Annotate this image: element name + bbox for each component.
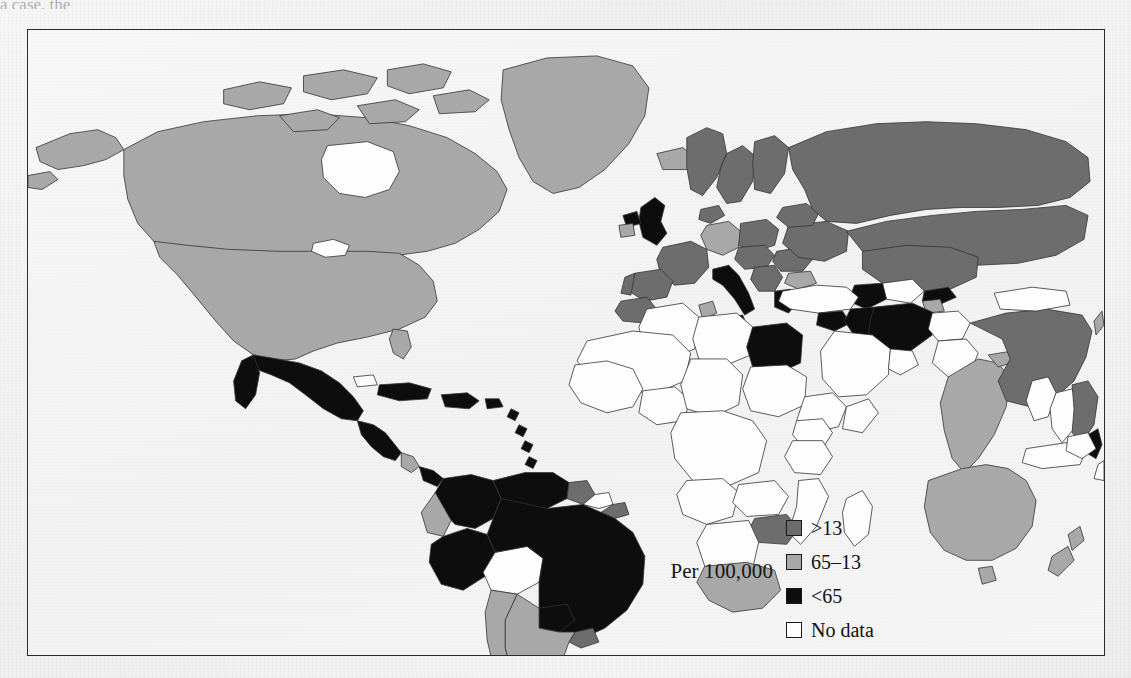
legend-label-low: <65 [811,586,842,606]
region-cuba [377,383,431,401]
region-greenland [501,56,649,194]
legend-item-mid: 65–13 [786,549,861,575]
legend-swatch-mid [786,554,802,570]
region-italy [713,265,755,315]
legend-unit-label: Per 100,000 [621,559,773,584]
region-ireland [619,223,635,237]
figure-frame: .ct{stroke:#333;stroke-width:0.8;stroke-… [27,29,1105,656]
region-libya [693,313,753,365]
legend-swatch-high [786,520,802,536]
region-afghanistan [928,311,970,341]
region-congo [671,411,767,487]
region-alaska [36,130,124,170]
region-tanzania [785,441,833,475]
region-new-zealand [1068,526,1084,550]
legend-item-low: <65 [786,583,842,609]
region-saudi-arabia [821,331,891,397]
legend-swatch-low [786,588,802,604]
region-somalia [842,399,878,433]
legend-label-mid: 65–13 [811,552,861,572]
legend-swatch-nodata [786,622,802,638]
region-canada [124,114,507,262]
region-new-guinea [1094,461,1104,481]
region-turkey [779,285,859,313]
region-tasmania [978,566,996,584]
region-japan [1094,311,1104,335]
region-balkans [751,265,783,291]
legend-label-high: >13 [811,518,842,538]
map-legend: Per 100,000 >13 65–13 <65 No data [621,485,951,645]
region-sudan [743,365,807,417]
region-mongolia [994,287,1070,311]
region-peru [429,528,495,590]
legend-label-nodata: No data [811,620,874,640]
region-finland [753,136,789,194]
region-united-kingdom [639,197,667,245]
region-hispaniola [441,393,479,409]
legend-item-high: >13 [786,515,842,541]
region-mexico [242,355,364,421]
cropped-body-text: a case, the [0,0,300,9]
legend-item-nodata: No data [786,617,874,643]
region-chad-car [681,359,743,417]
region-central-america [357,421,401,461]
region-denmark [699,205,725,223]
region-west-africa [569,361,643,413]
region-india [940,359,1010,473]
